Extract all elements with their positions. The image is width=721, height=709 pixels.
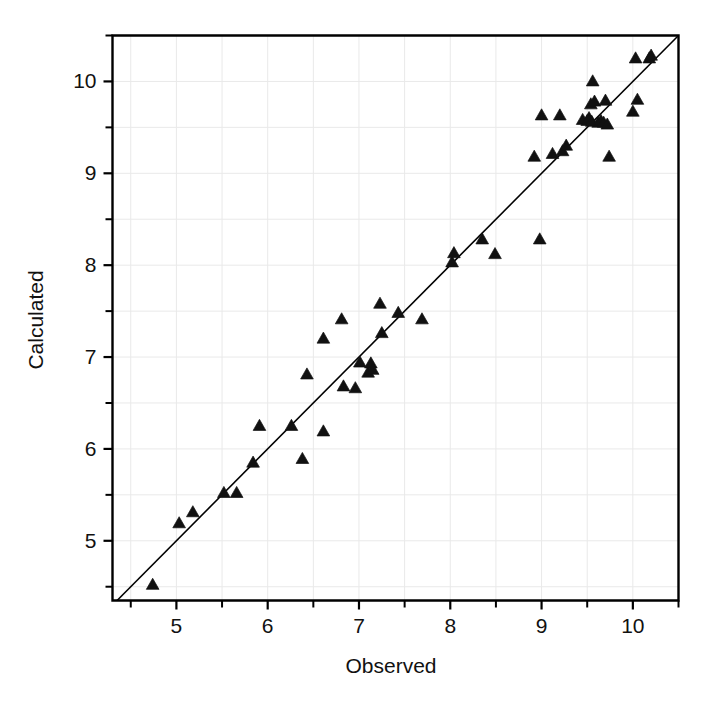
y-axis-tick-labels: 5678910 <box>73 69 96 551</box>
data-point-marker <box>317 425 330 436</box>
data-point-marker <box>535 109 548 120</box>
data-point-marker <box>416 313 429 324</box>
y-tick-label: 10 <box>73 69 96 92</box>
data-point-marker <box>146 578 159 589</box>
data-point-marker <box>528 150 541 161</box>
x-tick-label: 5 <box>171 614 183 637</box>
data-point-marker <box>301 368 314 379</box>
data-point-marker <box>337 380 350 391</box>
data-point-marker <box>645 49 658 60</box>
y-axis-title: Calculated <box>24 270 47 369</box>
y-tick-label: 8 <box>85 253 97 276</box>
data-point-marker <box>317 332 330 343</box>
data-point-marker <box>553 109 566 120</box>
data-point-marker <box>392 306 405 317</box>
scatter-plot-figure: 5678910 5678910 Observed Calculated <box>0 0 721 709</box>
data-point-marker <box>546 147 559 158</box>
data-point-marker <box>586 75 599 86</box>
data-point-marker <box>253 419 266 430</box>
x-tick-label: 6 <box>262 614 274 637</box>
data-point-marker <box>173 517 186 528</box>
data-point-marker <box>629 52 642 63</box>
y-axis-ticks <box>104 36 113 587</box>
y-tick-label: 7 <box>85 345 97 368</box>
data-point-marker <box>599 94 612 105</box>
data-point-marker <box>533 233 546 244</box>
data-point-marker <box>296 452 309 463</box>
data-point-marker <box>375 327 388 338</box>
y-tick-label: 9 <box>85 161 97 184</box>
data-point-marker <box>627 105 640 116</box>
x-axis-ticks <box>131 601 679 610</box>
data-point-marker <box>335 313 348 324</box>
x-axis-tick-labels: 5678910 <box>171 614 645 637</box>
data-point-marker <box>603 150 616 161</box>
x-tick-label: 10 <box>621 614 644 637</box>
data-point-marker <box>489 248 502 259</box>
data-point-marker <box>186 506 199 517</box>
x-tick-label: 9 <box>536 614 548 637</box>
y-tick-label: 6 <box>85 437 97 460</box>
data-point-marker <box>349 382 362 393</box>
y-tick-label: 5 <box>85 529 97 552</box>
x-tick-label: 7 <box>353 614 365 637</box>
x-axis-title: Observed <box>345 654 436 677</box>
x-tick-label: 8 <box>444 614 456 637</box>
data-point-marker <box>374 297 387 308</box>
data-point-markers <box>146 49 657 589</box>
plot-canvas: 5678910 5678910 Observed Calculated <box>0 0 721 709</box>
data-point-marker <box>448 247 461 258</box>
data-point-marker <box>247 456 260 467</box>
data-point-marker <box>230 486 243 497</box>
